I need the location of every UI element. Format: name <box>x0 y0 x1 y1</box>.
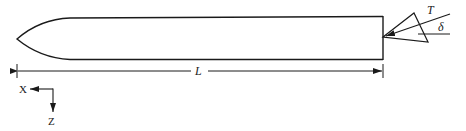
thruster-nozzle <box>383 13 428 42</box>
diagram-canvas: T δ L X Z <box>0 0 466 131</box>
vehicle-hull <box>17 17 383 60</box>
x-axis-label: X <box>19 83 27 95</box>
thrust-label: T <box>427 3 435 17</box>
deflection-angle-label: δ <box>438 20 444 34</box>
length-label: L <box>194 64 202 78</box>
z-axis-label: Z <box>48 115 55 127</box>
